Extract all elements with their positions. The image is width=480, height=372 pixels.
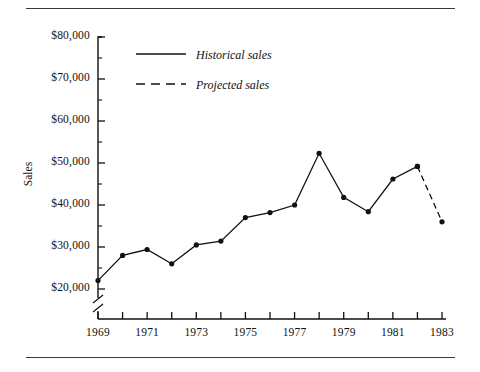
y-axis-tick-label: $40,000 — [28, 197, 90, 209]
x-axis-tick-label: 1977 — [272, 326, 318, 338]
series-line-dashed — [417, 166, 442, 221]
x-axis-tick-label: 1971 — [124, 326, 170, 338]
data-point-marker — [194, 242, 199, 247]
y-axis-break-slash-2 — [93, 304, 103, 312]
data-point-marker — [169, 261, 174, 266]
legend-label-projected: Projected sales — [196, 78, 269, 93]
y-axis-tick-label: $50,000 — [28, 155, 90, 167]
y-axis-tick-label: $20,000 — [28, 281, 90, 293]
data-point-marker — [145, 247, 150, 252]
data-point-marker — [390, 176, 395, 181]
x-axis-tick-label: 1981 — [370, 326, 416, 338]
y-axis-tick-label: $70,000 — [28, 71, 90, 83]
data-point-marker — [95, 278, 100, 283]
y-axis-tick-label: $30,000 — [28, 239, 90, 251]
legend-swatches-group — [136, 54, 186, 84]
y-axis-spine-upper — [98, 37, 102, 298]
y-axis-title: Sales — [22, 144, 34, 204]
x-axis-tick-label: 1973 — [173, 326, 219, 338]
data-point-marker — [317, 151, 322, 156]
data-point-marker — [243, 215, 248, 220]
x-axis-tick-label: 1969 — [75, 326, 121, 338]
data-point-marker — [267, 210, 272, 215]
x-axis-tick-label: 1979 — [321, 326, 367, 338]
data-point-marker — [415, 164, 420, 169]
data-point-marker — [292, 202, 297, 207]
x-axis-tick-label: 1975 — [222, 326, 268, 338]
figure-container: Sales $20,000$30,000$40,000$50,000$60,00… — [0, 0, 480, 372]
data-point-marker — [439, 219, 444, 224]
data-series-group — [95, 151, 444, 284]
data-point-marker — [218, 239, 223, 244]
legend-label-historical: Historical sales — [196, 48, 272, 63]
y-axis-tick-label: $80,000 — [28, 29, 90, 41]
y-axis-tick-label: $60,000 — [28, 113, 90, 125]
data-point-marker — [341, 195, 346, 200]
x-axis-tick-label: 1983 — [419, 326, 465, 338]
series-line-solid — [98, 153, 417, 280]
data-point-marker — [366, 209, 371, 214]
data-point-marker — [120, 253, 125, 258]
